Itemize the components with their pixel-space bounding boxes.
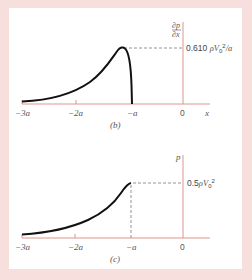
- chart-c-panel-label: (c): [110, 254, 120, 264]
- chart-c-tick-label-zero: 0: [180, 242, 185, 252]
- chart-c-tick-label-minusa: −a: [126, 242, 137, 252]
- chart-b-tick-label-zero: 0: [180, 108, 185, 118]
- annotation-suffix: /a: [225, 43, 233, 53]
- chart-b-panel-label: (b): [110, 120, 121, 130]
- annotation-prefix: 0.610: [186, 43, 210, 53]
- chart-b-tick-label-minus3a: −3a: [15, 108, 31, 118]
- chart-c-tick-label-minus2a: −2a: [68, 242, 84, 252]
- chart-b-tick-label-minus2a: −2a: [68, 108, 84, 118]
- figure-svg: −3a −2a −a 0 x (b) ∂p ∂x 0.610 ρV02/a −3…: [0, 0, 252, 280]
- chart-c-peak-annotation: 0.5ρV02: [187, 178, 215, 189]
- chart-b: −3a −2a −a 0 x (b) ∂p ∂x 0.610 ρV02/a: [15, 21, 232, 130]
- annotation-prefix: 0.5: [187, 178, 199, 188]
- chart-b-y-label-denominator: ∂x: [172, 30, 180, 39]
- chart-c-tick-label-minus3a: −3a: [15, 242, 31, 252]
- chart-b-curve: [22, 47, 132, 104]
- chart-c: −3a −2a −a 0 (c) p 0.5ρV02: [15, 152, 215, 264]
- chart-b-x-axis-label: x: [204, 108, 209, 118]
- chart-b-peak-annotation: 0.610 ρV02/a: [186, 43, 232, 54]
- chart-c-y-axis-label: p: [175, 152, 181, 162]
- chart-c-curve: [22, 183, 131, 235]
- annotation-sup: 2: [211, 178, 215, 184]
- chart-b-tick-label-minusa: −a: [127, 108, 138, 118]
- chart-b-y-label-numerator: ∂p: [172, 21, 180, 30]
